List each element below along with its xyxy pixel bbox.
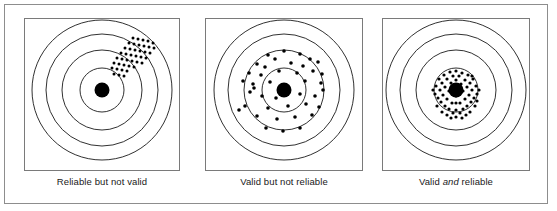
shot-dot xyxy=(437,77,440,80)
panel-caption-valid-and-reliable: Valid and reliable xyxy=(382,176,530,187)
shot-dot xyxy=(128,42,131,45)
shot-dot xyxy=(128,65,131,68)
shot-dot xyxy=(274,96,278,100)
shot-dot xyxy=(123,64,126,67)
shot-dot xyxy=(134,49,137,52)
shot-dot xyxy=(144,51,147,54)
shot-dot xyxy=(133,66,136,69)
shot-dot xyxy=(277,69,281,73)
shot-dot xyxy=(123,75,126,78)
shot-dot xyxy=(143,45,146,48)
shot-dot xyxy=(153,47,156,50)
shot-dot xyxy=(440,110,443,113)
shot-dot xyxy=(124,47,127,50)
shot-dot xyxy=(241,79,245,83)
shot-dot xyxy=(126,70,129,73)
shot-dot xyxy=(116,68,119,71)
shot-dot xyxy=(461,107,464,110)
shot-dot xyxy=(443,104,446,107)
caption-text-suffix: reliable xyxy=(459,176,493,187)
shot-dot xyxy=(126,59,129,62)
shot-dot xyxy=(147,40,150,43)
shot-dot xyxy=(447,107,450,110)
shot-dot xyxy=(310,113,314,117)
shot-dot xyxy=(463,78,466,81)
shot-dot xyxy=(465,85,468,88)
shot-dot xyxy=(145,57,148,60)
shot-dot xyxy=(113,62,116,65)
caption-text-prefix: Valid xyxy=(419,176,443,187)
shot-dot xyxy=(472,96,475,99)
shot-dot xyxy=(445,113,448,116)
shot-dot xyxy=(448,70,451,73)
target-bullseye xyxy=(449,83,464,98)
shot-dot xyxy=(281,129,285,133)
shot-dot xyxy=(247,71,251,75)
shot-dot xyxy=(438,88,441,91)
shot-dot xyxy=(460,116,463,119)
shot-dot xyxy=(316,60,320,64)
shot-dot xyxy=(136,61,139,64)
shot-dot xyxy=(130,54,133,57)
shot-dot xyxy=(141,62,144,65)
shot-dot xyxy=(308,57,312,61)
shot-dot xyxy=(132,37,135,40)
target-diagram xyxy=(24,18,180,171)
shot-dot xyxy=(439,100,442,103)
shot-dot xyxy=(133,43,136,46)
shot-dot xyxy=(116,57,119,60)
shot-dot xyxy=(259,73,263,77)
shot-dot xyxy=(319,81,323,85)
target-panel-valid-not-reliable xyxy=(205,18,363,171)
shot-dot xyxy=(304,102,308,106)
shot-dot xyxy=(118,74,121,77)
shot-dot xyxy=(470,88,473,91)
shot-dot xyxy=(139,50,142,53)
shot-dot xyxy=(321,88,325,92)
shot-dot xyxy=(475,92,478,95)
shot-dot xyxy=(471,77,474,80)
shot-dot xyxy=(131,60,134,63)
shot-dot xyxy=(457,74,460,77)
shot-dot xyxy=(450,101,453,104)
shot-dot xyxy=(303,79,307,83)
shot-dot xyxy=(149,52,152,55)
shot-dot xyxy=(451,111,454,114)
shot-dot xyxy=(440,81,443,84)
shot-dot xyxy=(454,108,457,111)
shot-dot xyxy=(275,117,279,121)
shot-dot xyxy=(260,94,264,98)
shot-dot xyxy=(454,115,457,118)
shot-dot xyxy=(320,72,324,76)
shot-dot xyxy=(137,38,140,41)
shot-dot xyxy=(475,99,478,102)
target-diagram xyxy=(382,18,530,171)
shot-dot xyxy=(298,92,302,96)
shot-dot xyxy=(469,100,472,103)
shot-dot xyxy=(298,126,302,130)
shot-dot xyxy=(473,104,476,107)
shot-dot xyxy=(463,97,466,100)
shot-dot xyxy=(266,106,270,110)
shot-dot xyxy=(264,126,268,130)
shot-dot xyxy=(295,71,299,75)
shot-dot xyxy=(464,113,467,116)
shot-dot xyxy=(252,86,256,90)
shot-dot xyxy=(301,64,305,68)
shot-dot xyxy=(286,104,290,108)
target-bullseye xyxy=(95,83,110,98)
shot-dot xyxy=(293,115,297,119)
shot-dot xyxy=(454,69,457,72)
shot-dot xyxy=(255,114,259,118)
shot-dot xyxy=(454,101,457,104)
shot-dot xyxy=(468,110,471,113)
shot-dot xyxy=(477,88,480,91)
shot-dot xyxy=(135,55,138,58)
shot-dot xyxy=(451,74,454,77)
shot-dot xyxy=(268,80,272,84)
shot-dot xyxy=(282,49,286,53)
shot-dot xyxy=(273,57,277,61)
shot-dot xyxy=(118,63,121,66)
shot-dot xyxy=(466,73,469,76)
shot-dot xyxy=(248,90,252,94)
